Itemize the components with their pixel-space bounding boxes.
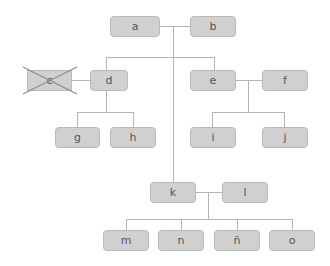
node-l[interactable]: l: [222, 182, 268, 203]
node-c-crossed-out[interactable]: c: [27, 70, 72, 91]
node-d[interactable]: d: [90, 70, 128, 91]
node-d-label: d: [106, 74, 113, 87]
node-h-label: h: [130, 131, 137, 144]
family-tree-diagram: a b c d e f g h i j k l m n ñ o: [0, 0, 330, 266]
connector-to-g: [77, 112, 78, 127]
connector-to-o: [292, 219, 293, 230]
connector-to-m: [126, 219, 127, 230]
connector-to-e: [214, 57, 215, 70]
node-j-label: j: [283, 131, 286, 144]
node-o-label: o: [289, 234, 296, 247]
node-j[interactable]: j: [262, 127, 308, 148]
node-b-label: b: [210, 20, 217, 33]
node-g-label: g: [74, 131, 81, 144]
connector-to-n-tilde: [237, 219, 238, 230]
node-k-label: k: [170, 186, 176, 199]
connector-kl-drop: [208, 192, 209, 219]
node-i-label: i: [211, 131, 214, 144]
connector-c-d: [72, 80, 90, 81]
node-a[interactable]: a: [110, 16, 160, 37]
connector-ab-children-bar: [106, 57, 215, 58]
node-a-label: a: [132, 20, 139, 33]
connector-to-j: [284, 112, 285, 127]
connector-ef-drop: [248, 80, 249, 112]
node-f-label: f: [283, 74, 287, 87]
node-m[interactable]: m: [103, 230, 149, 251]
node-h[interactable]: h: [110, 127, 156, 148]
node-k[interactable]: k: [150, 182, 196, 203]
node-n-label: n: [178, 234, 185, 247]
connector-kl-children-bar: [126, 219, 293, 220]
node-o[interactable]: o: [269, 230, 315, 251]
connector-a-b: [160, 26, 190, 27]
connector-cd-drop: [106, 90, 107, 112]
node-i[interactable]: i: [190, 127, 236, 148]
node-n-tilde-label: ñ: [234, 234, 241, 247]
connector-ef-children-bar: [212, 112, 285, 113]
connector-to-i: [212, 112, 213, 127]
connector-to-n: [181, 219, 182, 230]
connector-to-d: [106, 57, 107, 70]
connector-cd-children-bar: [77, 112, 134, 113]
connector-to-h: [133, 112, 134, 127]
node-e-label: e: [210, 74, 217, 87]
node-n-tilde[interactable]: ñ: [214, 230, 260, 251]
node-c-label: c: [46, 74, 52, 87]
node-g[interactable]: g: [55, 127, 100, 148]
node-l-label: l: [243, 186, 246, 199]
connector-ab-trunk: [173, 26, 174, 182]
node-n[interactable]: n: [158, 230, 204, 251]
node-m-label: m: [121, 234, 132, 247]
node-e[interactable]: e: [190, 70, 236, 91]
node-b[interactable]: b: [190, 16, 236, 37]
node-f[interactable]: f: [262, 70, 308, 91]
